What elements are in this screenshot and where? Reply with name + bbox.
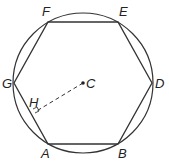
center-point (81, 81, 85, 85)
label-D: D (155, 76, 164, 91)
hexagon-diagram: F E D B A G C H (0, 0, 169, 165)
label-G: G (2, 76, 12, 91)
label-B: B (118, 146, 127, 161)
apothem-segment (35, 83, 83, 112)
label-E: E (119, 4, 128, 19)
label-A: A (40, 146, 50, 161)
label-C: C (86, 76, 96, 91)
label-H: H (29, 95, 39, 110)
label-F: F (42, 4, 51, 19)
